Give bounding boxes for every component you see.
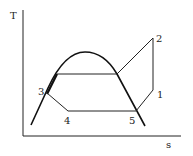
x-axis-label: s [166,139,171,150]
point-label-3: 3 [38,86,44,97]
point-label-5: 5 [129,115,135,126]
point-label-4: 4 [64,115,70,126]
point-label-1: 1 [157,89,163,100]
compression-segment [47,74,57,94]
point-label-2: 2 [156,33,162,44]
y-axis-label: T [10,10,17,21]
ts-diagram: T s 2 1 3 4 5 [0,0,193,156]
cycle-path [47,38,153,111]
